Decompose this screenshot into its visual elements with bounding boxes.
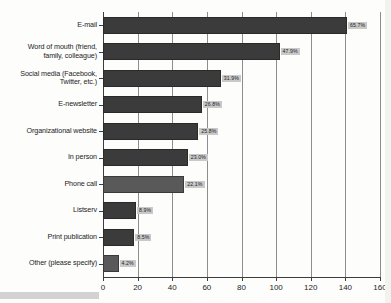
bar-chart: E-mailWord of mouth (friend,family, coll… — [0, 0, 391, 303]
category-label: In person — [0, 153, 97, 162]
category-label: E-newsletter — [0, 100, 97, 109]
x-tick-mark-40 — [172, 277, 173, 281]
x-tick-mark-0 — [103, 277, 104, 281]
bar — [103, 96, 202, 113]
bar-row: 8.9% — [103, 202, 380, 219]
x-tick-label-0: 0 — [101, 283, 105, 292]
x-tick-mark-120 — [311, 277, 312, 281]
bar-rows: 65.7%47.9%31.9%26.8%25.8%23.0%22.1%8.9%8… — [103, 12, 380, 277]
gridline-160 — [380, 12, 381, 277]
x-tick-label-140: 140 — [339, 283, 352, 292]
x-tick-mark-60 — [207, 277, 208, 281]
bar — [103, 229, 134, 246]
plot-area: 65.7%47.9%31.9%26.8%25.8%23.0%22.1%8.9%8… — [103, 12, 380, 277]
category-label: Social media (Facebook,Twitter, etc.) — [0, 70, 97, 87]
x-tick-mark-100 — [276, 277, 277, 281]
bar-row: 26.8% — [103, 96, 380, 113]
x-tick-mark-160 — [380, 277, 381, 281]
x-tick-label-120: 120 — [304, 283, 317, 292]
page-edge-artifact — [385, 0, 391, 303]
x-tick-label-20: 20 — [133, 283, 142, 292]
category-label: Phone call — [0, 180, 97, 189]
bar-row: 22.1% — [103, 176, 380, 193]
bar — [103, 202, 136, 219]
bar-value-label: 31.9% — [222, 75, 241, 82]
category-label: Other (please specify) — [0, 259, 97, 268]
bar — [103, 149, 188, 166]
category-label: Organizational website — [0, 127, 97, 136]
bar-value-label: 8.9% — [137, 207, 153, 214]
bar-value-label: 4.2% — [120, 260, 136, 267]
bar — [103, 176, 184, 193]
bar-row: 65.7% — [103, 17, 380, 34]
x-tick-mark-140 — [345, 277, 346, 281]
category-label: Word of mouth (friend,family, colleague) — [0, 43, 97, 60]
x-tick-mark-80 — [242, 277, 243, 281]
x-tick-label-40: 40 — [168, 283, 177, 292]
category-label: Print publication — [0, 233, 97, 242]
bar-row: 31.9% — [103, 70, 380, 87]
bar-value-label: 23.0% — [189, 154, 208, 161]
bar-value-label: 22.1% — [185, 181, 204, 188]
bar-row: 23.0% — [103, 149, 380, 166]
bar-value-label: 26.8% — [203, 101, 222, 108]
bar — [103, 255, 119, 272]
scan-artifact-strip — [0, 292, 99, 299]
bar — [103, 123, 198, 140]
x-tick-label-60: 60 — [202, 283, 211, 292]
bar-value-label: 8.5% — [135, 234, 151, 241]
bar — [103, 70, 221, 87]
bar-value-label: 47.9% — [281, 48, 300, 55]
x-tick-label-100: 100 — [269, 283, 282, 292]
bar-value-label: 25.8% — [199, 128, 218, 135]
bar-row: 47.9% — [103, 43, 380, 60]
bar-row: 4.2% — [103, 255, 380, 272]
category-label: Listserv — [0, 206, 97, 215]
category-label: E-mail — [0, 21, 97, 30]
bar — [103, 43, 280, 60]
category-axis: E-mailWord of mouth (friend,family, coll… — [0, 12, 103, 277]
x-tick-mark-20 — [138, 277, 139, 281]
bar — [103, 17, 347, 34]
bar-value-label: 65.7% — [348, 22, 367, 29]
bar-row: 25.8% — [103, 123, 380, 140]
x-tick-label-80: 80 — [237, 283, 246, 292]
bar-row: 8.5% — [103, 229, 380, 246]
